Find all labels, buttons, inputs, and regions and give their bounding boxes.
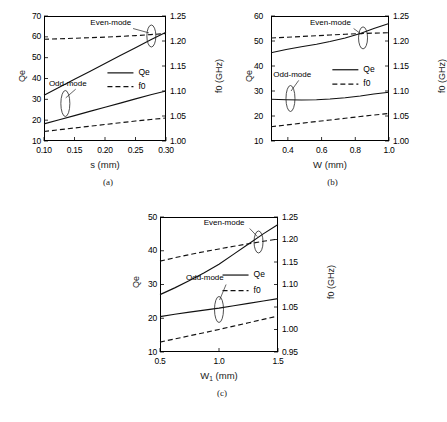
odd-mode-annotation: Odd-mode (49, 79, 87, 88)
x-tick-label: 0.6 (308, 145, 336, 155)
y-tick-label: 50 (123, 212, 157, 222)
y2-tick-label: 1.15 (170, 61, 186, 71)
x-tick-label: 0.25 (122, 145, 150, 155)
y2-tick-label: 1.00 (170, 136, 186, 146)
series-2 (44, 34, 166, 40)
x-tick-label: 0.5 (146, 356, 174, 366)
panel-caption: (c) (122, 388, 322, 398)
series-1 (44, 91, 166, 124)
x-tick-label: 0.15 (61, 145, 89, 155)
y2-axis-label: f0 (GHz) (326, 256, 336, 308)
y-tick-label: 10 (123, 347, 157, 357)
y2-tick-label: 1.20 (282, 234, 298, 244)
y2-tick-label: 0.95 (282, 347, 298, 357)
legend-label-qe: Qe (254, 269, 265, 279)
x-axis-label: s (mm) (44, 159, 166, 170)
series-2 (160, 239, 278, 261)
y2-tick-label: 1.05 (282, 302, 298, 312)
x-axis-label: W (mm) (271, 159, 389, 170)
x-tick-label: 0.10 (30, 145, 58, 155)
panel-caption: (a) (8, 177, 208, 187)
legend-label-qe: Qe (363, 64, 374, 74)
odd-mode-group-ellipse (286, 86, 295, 112)
odd-mode-group-ellipse (61, 91, 70, 117)
y-tick-label: 20 (9, 115, 41, 125)
legend-label-f0: f0 (363, 78, 370, 88)
even-mode-group-ellipse (147, 25, 156, 47)
y2-tick-label: 1.20 (393, 36, 409, 46)
legend-label-f0: f0 (254, 285, 261, 295)
x-tick-label: 1.5 (264, 356, 292, 366)
x-tick-label: 0.4 (274, 145, 302, 155)
x-tick-label: 1.0 (375, 145, 403, 155)
even-mode-annotation: Even-mode (204, 218, 245, 227)
y2-tick-label: 1.20 (170, 36, 186, 46)
series-1 (160, 299, 278, 317)
chart-panel-a: 102030405060701.001.051.101.151.201.250.… (8, 4, 208, 194)
odd-mode-annotation: Odd-mode (273, 70, 311, 79)
y2-tick-label: 1.10 (170, 86, 186, 96)
odd-mode-group-ellipse (215, 296, 224, 322)
y2-tick-label: 1.15 (282, 257, 298, 267)
series-3 (44, 118, 166, 132)
y-tick-label: 70 (9, 11, 41, 21)
y2-tick-label: 1.05 (393, 111, 409, 121)
odd-mode-annotation: Odd-mode (186, 273, 224, 282)
chart-panel-c: 10203040500.951.001.051.101.151.201.250.… (122, 205, 322, 417)
y2-tick-label: 1.25 (170, 11, 186, 21)
series-3 (160, 316, 278, 342)
y-axis-label: Qe (17, 56, 27, 96)
y-tick-label: 20 (231, 111, 263, 121)
series-3 (271, 114, 389, 127)
odd-mode-leader (66, 89, 76, 98)
y2-tick-label: 1.15 (393, 61, 409, 71)
y2-tick-label: 1.05 (170, 111, 186, 121)
y-tick-label: 50 (231, 36, 263, 46)
x-tick-label: 0.8 (341, 145, 369, 155)
x-tick-label: 1.0 (205, 356, 233, 366)
y2-tick-label: 1.25 (282, 212, 298, 222)
y-tick-label: 60 (231, 11, 263, 21)
y-tick-label: 40 (123, 245, 157, 255)
y-tick-label: 10 (231, 136, 263, 146)
y2-axis-label: f0 (GHz) (214, 50, 224, 102)
odd-mode-leader (220, 285, 226, 301)
y2-tick-label: 1.00 (393, 136, 409, 146)
y-tick-label: 10 (9, 136, 41, 146)
y2-tick-label: 1.00 (282, 324, 298, 334)
y2-tick-label: 1.10 (282, 279, 298, 289)
series-1 (271, 92, 389, 100)
x-axis-label: W1 (mm) (160, 370, 278, 382)
legend-label-qe: Qe (138, 67, 149, 77)
y-axis-label: Qe (244, 56, 254, 96)
legend-label-f0: f0 (138, 81, 145, 91)
y2-tick-label: 1.25 (393, 11, 409, 21)
chart-panel-b: 1020304050601.001.051.101.151.201.250.40… (235, 4, 430, 194)
even-mode-annotation: Even-mode (90, 18, 131, 27)
y-tick-label: 20 (123, 313, 157, 323)
series-0 (271, 24, 389, 53)
x-tick-label: 0.30 (152, 145, 180, 155)
even-mode-group-ellipse (359, 27, 368, 49)
y2-axis-label: f0 (GHz) (437, 50, 447, 102)
panel-caption: (b) (235, 177, 430, 187)
even-mode-leader (133, 29, 149, 33)
odd-mode-leader (291, 80, 299, 91)
y2-tick-label: 1.10 (393, 86, 409, 96)
y-tick-label: 60 (9, 31, 41, 41)
series-2 (271, 33, 389, 38)
x-tick-label: 0.20 (91, 145, 119, 155)
y-axis-label: Qe (131, 262, 141, 302)
even-mode-annotation: Even-mode (310, 18, 351, 27)
